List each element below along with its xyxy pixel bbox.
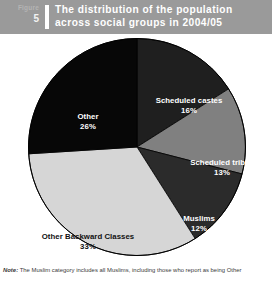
figure-number: 5: [3, 13, 39, 24]
page-title: The distribution of the population acros…: [55, 4, 267, 29]
pie-chart-svg: [18, 36, 256, 258]
figure-header-bar: Figure 5 The distribution of the populat…: [0, 0, 272, 34]
page-title-line-2: across social groups in 2004/05: [55, 17, 267, 30]
pie-slice-group: [28, 38, 245, 255]
footnote-text: The Muslim category includes all Muslims…: [18, 267, 241, 273]
pie-chart: [18, 36, 256, 258]
chart-area: Scheduled castes 16% Scheduled tribes 13…: [0, 34, 272, 259]
page-title-line-1: The distribution of the population: [55, 4, 267, 17]
figure-label: Figure: [3, 4, 39, 12]
header-divider-rule: [45, 5, 49, 29]
chart-footnote: Note: The Muslim category includes all M…: [3, 266, 269, 274]
pie-slice-other: [28, 38, 137, 153]
footnote-note-word: Note:: [3, 267, 18, 273]
